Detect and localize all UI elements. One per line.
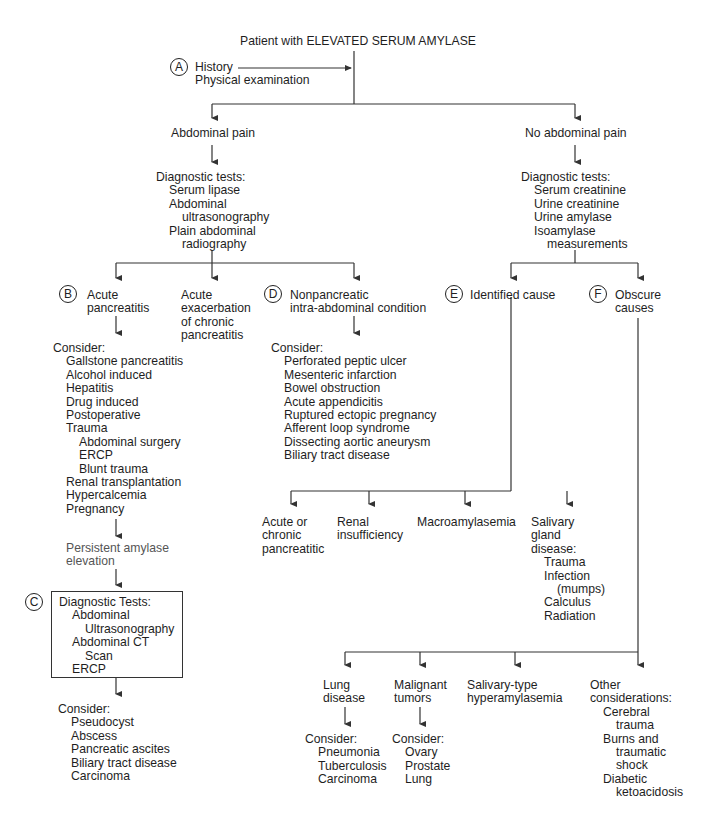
node-label: Salivary (531, 516, 605, 529)
cause-renal-insufficiency: Renal insufficiency (337, 516, 403, 543)
obscure-other-considerations: Other considerations: Cerebral trauma Bu… (590, 679, 683, 800)
abdominal-pain-tests: Diagnostic tests: Serum lipase Abdominal… (156, 171, 269, 251)
node-label: Acute (181, 289, 251, 302)
node-label: Obscure (615, 289, 661, 302)
node-label: pancreatitis (87, 302, 149, 315)
persistent-amylase-node: Persistent amylase elevation (66, 542, 169, 569)
node-label: gland (531, 529, 605, 542)
consider-item: Drug induced (53, 396, 183, 409)
node-label: Acute or (262, 516, 324, 529)
consider-item: Alcohol induced (53, 369, 183, 382)
consider-item: Blunt trauma (53, 463, 183, 476)
consider-header: Consider: (392, 733, 450, 746)
consider-item: Carcinoma (305, 773, 387, 786)
step-c-tests: Diagnostic Tests: Abdominal Ultrasonogra… (59, 596, 174, 676)
cause-salivary-gland-disease: Salivary gland disease: Trauma Infection… (531, 516, 605, 623)
node-label: tumors (394, 692, 447, 705)
obscure-salivary-type-hyperamylasemia: Salivary-type hyperamylasemia (467, 679, 563, 706)
consider-item: Biliary tract disease (271, 449, 436, 462)
node-label: insufficiency (337, 529, 403, 542)
step-b-badge: B (59, 285, 77, 303)
no-abdominal-pain-tests: Diagnostic tests: Serum creatinine Urine… (521, 171, 628, 251)
consider-item: Pregnancy (53, 503, 183, 516)
sub-item: Burns and (590, 733, 683, 746)
consider-item: Dissecting aortic aneurysm (271, 436, 436, 449)
cause-acute-chronic-pancreatitis: Acute or chronic pancreatitic (262, 516, 324, 556)
node-label: Salivary-type (467, 679, 563, 692)
abdominal-pain-node: Abdominal pain (171, 127, 255, 140)
test-item: Serum creatinine (521, 184, 628, 197)
sub-item: traumatic (590, 746, 683, 759)
consider-item: Trauma (53, 422, 183, 435)
node-label: considerations: (590, 692, 683, 705)
node-label: pancreatitic (262, 543, 324, 556)
consider-item: Afferent loop syndrome (271, 422, 436, 435)
test-item: Abdominal CT (59, 636, 174, 649)
consider-item: Postoperative (53, 409, 183, 422)
step-e-badge: E (445, 285, 463, 303)
consider-item: Prostate (392, 760, 450, 773)
tests-header: Diagnostic Tests: (59, 596, 174, 609)
step-f-badge: F (589, 285, 607, 303)
consider-header: Consider: (58, 703, 177, 716)
node-label: Macroamylasemia (417, 516, 516, 529)
node-label: causes (615, 302, 661, 315)
acute-exacerbation-node: Acute exacerbation of chronic pancreatit… (181, 289, 251, 343)
consider-item: ERCP (53, 449, 183, 462)
consider-item: Perforated peptic ulcer (271, 355, 436, 368)
acute-pancreatitis-node: Acute pancreatitis (87, 289, 149, 316)
test-item: Urine creatinine (521, 198, 628, 211)
step-d-badge: D (264, 285, 282, 303)
sub-item: Infection (531, 570, 605, 583)
consider-item: Tuberculosis (305, 760, 387, 773)
node-label: Persistent amylase (66, 542, 169, 555)
node-label: elevation (66, 555, 169, 568)
consider-item: Pseudocyst (58, 716, 177, 729)
consider-item: Hypercalcemia (53, 489, 183, 502)
test-item: Ultrasonography (59, 623, 174, 636)
node-label: Lung (323, 679, 365, 692)
test-item: radiography (156, 238, 269, 251)
consider-item: Renal transplantation (53, 476, 183, 489)
consider-header: Consider: (305, 733, 387, 746)
node-label: hyperamylasemia (467, 692, 563, 705)
sub-item: ketoacidosis (590, 786, 683, 799)
step-a-badge: A (170, 58, 188, 76)
tests-header: Diagnostic tests: (521, 171, 628, 184)
node-label: disease (323, 692, 365, 705)
consider-item: Acute appendicitis (271, 396, 436, 409)
lung-disease-consider: Consider: Pneumonia Tuberculosis Carcino… (305, 733, 387, 787)
sub-item: shock (590, 759, 683, 772)
obscure-malignant-tumors: Malignant tumors (394, 679, 447, 706)
node-label: disease: (531, 543, 605, 556)
obscure-lung-disease: Lung disease (323, 679, 365, 706)
node-label: exacerbation (181, 302, 251, 315)
consider-item: Gallstone pancreatitis (53, 355, 183, 368)
cause-macroamylasemia: Macroamylasemia (417, 516, 516, 529)
obscure-causes-node: Obscure causes (615, 289, 661, 316)
step-a-history: History Physical examination (195, 61, 309, 88)
consider-item: Abscess (58, 730, 177, 743)
node-label: Other (590, 679, 683, 692)
test-item: Abdominal (59, 609, 174, 622)
acute-pancreatitis-consider: Consider: Gallstone pancreatitis Alcohol… (53, 342, 183, 516)
consider-item: Bowel obstruction (271, 382, 436, 395)
consider-item: Pancreatic ascites (58, 743, 177, 756)
test-item: Abdominal (156, 198, 269, 211)
node-label: Malignant (394, 679, 447, 692)
test-item: ERCP (59, 663, 174, 676)
test-item: Plain abdominal (156, 225, 269, 238)
sub-item: Radiation (531, 610, 605, 623)
consider-item: Biliary tract disease (58, 757, 177, 770)
consider-item: Pneumonia (305, 746, 387, 759)
root-node-title: Patient with ELEVATED SERUM AMYLASE (240, 35, 476, 48)
test-item: Scan (59, 650, 174, 663)
sub-item: Calculus (531, 596, 605, 609)
consider-item: Abdominal surgery (53, 436, 183, 449)
node-label: Acute (87, 289, 149, 302)
node-label: Nonpancreatic (290, 289, 426, 302)
tests-header: Diagnostic tests: (156, 171, 269, 184)
node-label: pancreatitis (181, 329, 251, 342)
malignant-tumors-consider: Consider: Ovary Prostate Lung (392, 733, 450, 787)
node-label: intra-abdominal condition (290, 302, 426, 315)
